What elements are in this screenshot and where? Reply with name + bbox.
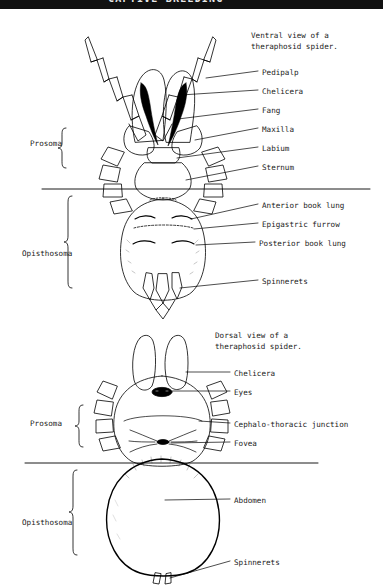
pedipalp-right (155, 37, 216, 141)
region-label-opisthosoma-dorsal: Opisthosoma (22, 518, 72, 527)
fang-left (140, 83, 158, 145)
coxae-right-dorsal (204, 381, 230, 451)
chelicera-left-ventral (132, 70, 166, 142)
dorsal-spider-drawing (94, 335, 230, 584)
brace-prosoma-dorsal (75, 405, 83, 447)
callout-label-eyes: Eyes (234, 388, 252, 397)
chelicera-left-dorsal (133, 335, 156, 390)
posterior-book-lung-left (133, 241, 155, 244)
fovea (157, 440, 169, 445)
ventral-figure-caption: Ventral view of a theraphosid spider. (251, 31, 338, 52)
anterior-book-lung-right (172, 216, 192, 219)
dorsal-figure-caption: Dorsal view of a theraphosid spider. (215, 331, 302, 352)
cephalo-thoracic-junction-line (124, 416, 202, 421)
callout-label-pedipalp: Pedipalp (262, 68, 299, 77)
dorsal-caption-line1: Dorsal view of a (215, 331, 288, 340)
carapace-dorsal (114, 376, 210, 466)
ventral-leader-lines (177, 71, 258, 288)
callout-label-fovea: Fovea (234, 439, 257, 448)
coxae-left-ventral (99, 147, 132, 214)
header-strip-title: CAPTIVE BREEDING (108, 0, 224, 4)
ventral-caption-line1: Ventral view of a (251, 31, 329, 40)
spinnerets-ventral (143, 273, 182, 319)
callout-label-cephalo-thoracic-junction: Cephalo-thoracic junction (234, 420, 348, 429)
maxilla-left (124, 126, 154, 155)
abdomen-dorsal (107, 459, 220, 576)
callout-label-spinnerets-ventral: Spinnerets (262, 277, 308, 286)
ventral-spider-drawing (85, 37, 227, 319)
dorsal-leader-lines (165, 372, 230, 578)
page-header-strip: CAPTIVE BREEDING (0, 0, 383, 9)
brace-opisthosoma-ventral (64, 196, 72, 288)
eyes-tubercle (152, 387, 172, 396)
callout-label-posterior-book-lung: Posterior book lung (259, 239, 346, 248)
anterior-book-lung-left (135, 216, 155, 219)
region-label-opisthosoma-ventral: Opisthosoma (22, 249, 72, 258)
coxae-left-dorsal (94, 381, 120, 451)
maxilla-right (172, 126, 202, 155)
pedipalp-left (85, 37, 146, 141)
brace-prosoma-ventral (58, 128, 66, 168)
fang-right (168, 83, 187, 146)
callout-label-spinnerets-dorsal: Spinnerets (234, 558, 280, 567)
callout-label-labium: Labium (262, 144, 289, 153)
spinnerets-dorsal (153, 573, 171, 584)
callout-label-epigastric-furrow: Epigastric furrow (262, 220, 340, 229)
region-label-prosoma-dorsal: Prosoma (30, 419, 62, 428)
region-label-prosoma-ventral: Prosoma (30, 139, 62, 148)
ventral-caption-line2: theraphosid spider. (251, 42, 338, 51)
chelicera-right-dorsal (165, 335, 188, 389)
opisthosoma-ventral (121, 199, 206, 300)
brace-opisthosoma-dorsal (69, 470, 77, 555)
callout-label-anterior-book-lung: Anterior book lung (262, 201, 344, 210)
callout-label-fang: Fang (262, 106, 280, 115)
posterior-book-lung-right (172, 241, 194, 244)
callout-label-chelicera-dorsal: Chelicera (234, 369, 275, 378)
chelicera-right-ventral (163, 71, 194, 142)
sternum (135, 163, 191, 200)
epigastric-furrow (134, 225, 193, 228)
callout-label-sternum: Sternum (262, 163, 294, 172)
dorsal-caption-line2: theraphosid spider. (215, 342, 302, 351)
callout-label-abdomen: Abdomen (234, 496, 266, 505)
thoracic-striae (129, 430, 197, 452)
coxae-right-ventral (194, 147, 227, 214)
callout-label-chelicera-ventral: Chelicera (262, 87, 303, 96)
spider-anatomy-lineart (0, 0, 383, 585)
diagram-page: CAPTIVE BREEDING Ventral view of a thera… (0, 0, 383, 585)
labium (147, 148, 180, 163)
callout-label-maxilla: Maxilla (262, 125, 294, 134)
